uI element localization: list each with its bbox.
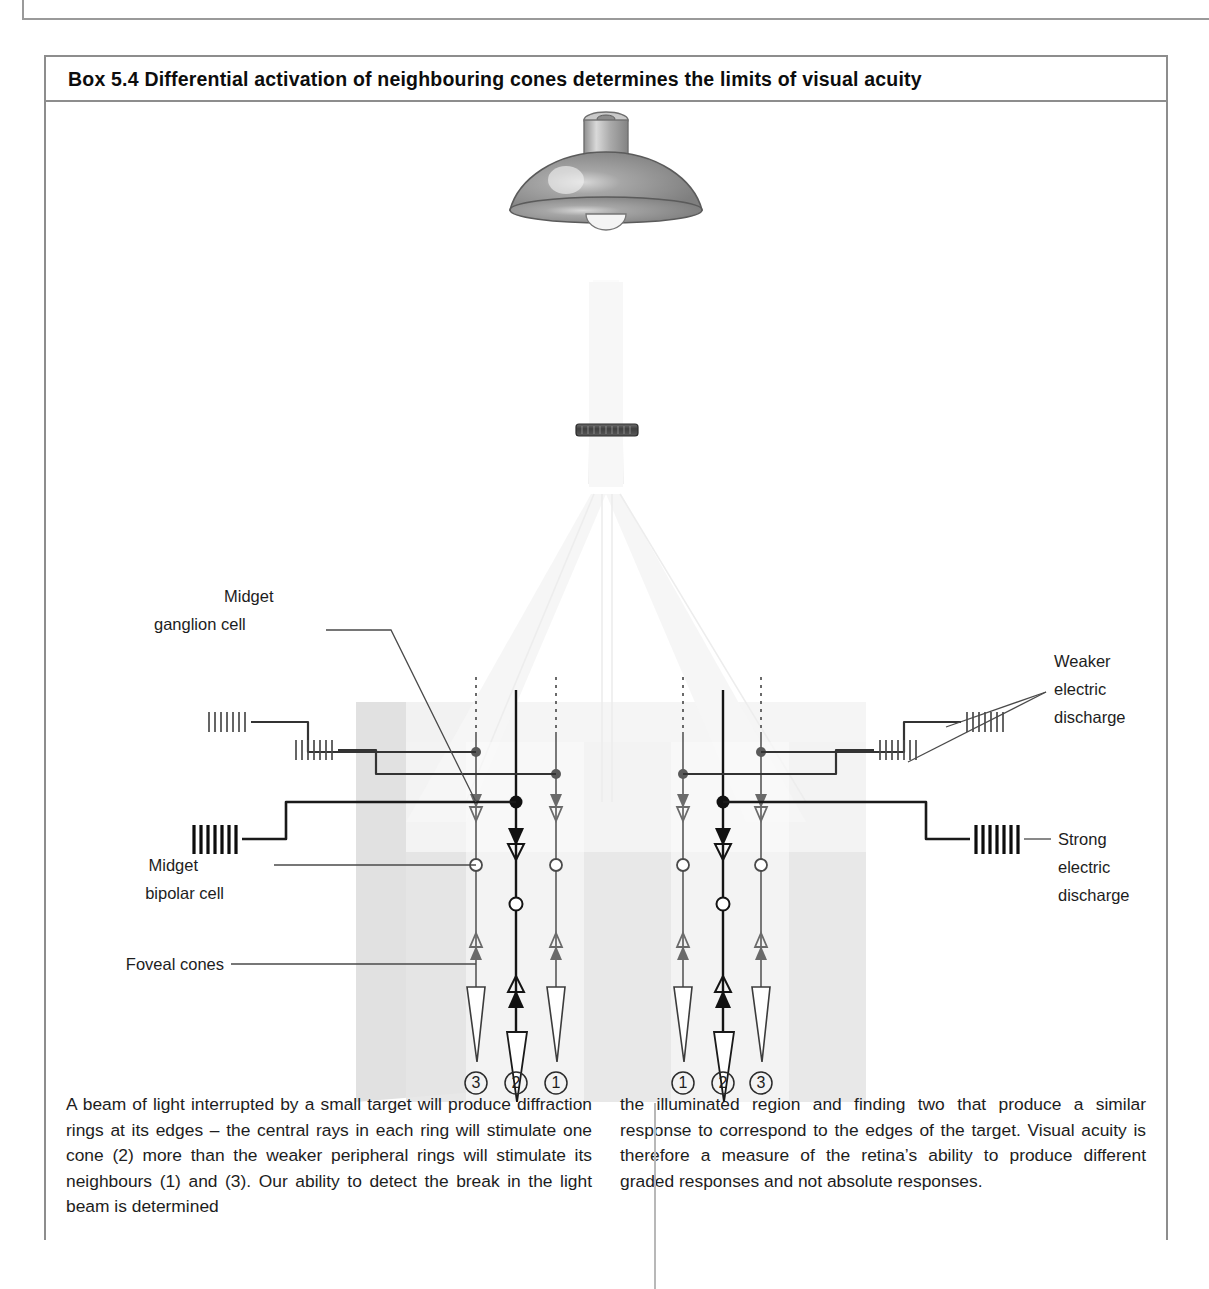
label-midget-bipolar-cell-line1: Midget [148, 856, 198, 874]
caption-column-divider [654, 1103, 656, 1289]
leader-weaker-discharge-a [946, 692, 1046, 727]
target-bar-body [576, 424, 638, 436]
spike-train-left-strong [194, 825, 236, 854]
cone-number-right-1: 2 [719, 1074, 728, 1091]
retina-acuity-figure: 3 2 [46, 102, 1166, 1102]
label-midget-ganglion-cell-line2: ganglion cell [154, 615, 246, 633]
figure-diagram: 3 2 [46, 102, 1166, 1102]
spike-train-left-weak-outer [209, 712, 245, 732]
label-strong-discharge-line1: Strong [1058, 830, 1107, 848]
target-bar [576, 424, 638, 436]
box-title: Box 5.4 Differential activation of neigh… [68, 68, 922, 91]
bipolar-cell-body-right-1 [677, 859, 689, 871]
beam-upper-fill [589, 282, 623, 487]
cone-number-left-0: 3 [472, 1074, 481, 1091]
caption-column-left: A beam of light interrupted by a small t… [66, 1092, 592, 1220]
box-caption: A beam of light interrupted by a small t… [46, 1092, 1166, 1220]
spike-train-left-weak-inner [296, 740, 332, 760]
cone-number-left-1: 2 [512, 1074, 521, 1091]
page-left-rule [22, 0, 24, 20]
spike-train-right-strong [976, 825, 1018, 854]
label-weaker-discharge-line1: Weaker [1054, 652, 1111, 670]
spike-train-right-weak-inner [880, 740, 916, 760]
lamp-cap-body [584, 120, 628, 156]
bipolar-cell-body-right-2 [717, 898, 730, 911]
box-container: Box 5.4 Differential activation of neigh… [44, 55, 1168, 1240]
lamp [510, 112, 702, 230]
box-header: Box 5.4 Differential activation of neigh… [46, 57, 1166, 102]
label-midget-ganglion-cell-line1: Midget [224, 587, 274, 605]
bipolar-cell-body-left-2 [510, 898, 523, 911]
label-strong-discharge-line2: electric [1058, 858, 1110, 876]
retina-block [356, 702, 866, 1102]
cone-number-right-2: 3 [757, 1074, 766, 1091]
lamp-specular-highlight [548, 166, 584, 194]
label-weaker-discharge-line2: electric [1054, 680, 1106, 698]
lamp-bulb [586, 214, 626, 230]
label-strong-discharge-line3: discharge [1058, 886, 1130, 904]
label-foveal-cones: Foveal cones [126, 955, 224, 973]
page-top-rule [22, 0, 1209, 20]
caption-column-right: the illuminated region and finding two t… [620, 1092, 1146, 1220]
bipolar-cell-body-right-3 [755, 859, 767, 871]
cone-number-left-2: 1 [552, 1074, 561, 1091]
label-midget-bipolar-cell-line2: bipolar cell [145, 884, 224, 902]
bipolar-cell-body-left-1 [550, 859, 562, 871]
cone-number-right-0: 1 [679, 1074, 688, 1091]
label-weaker-discharge-line3: discharge [1054, 708, 1126, 726]
leader-weaker-discharge-b [908, 692, 1046, 762]
